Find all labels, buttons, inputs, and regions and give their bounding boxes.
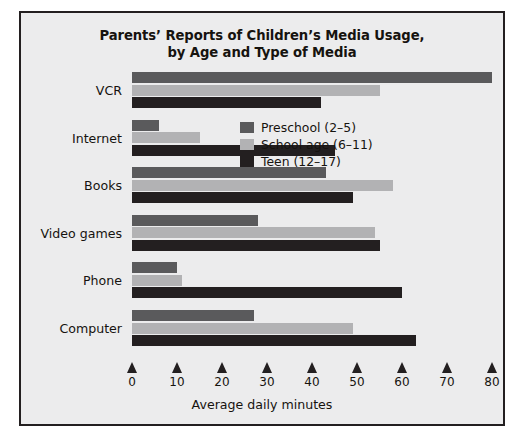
- bar: [132, 323, 353, 334]
- bar: [132, 120, 159, 131]
- legend-label: Preschool (2–5): [261, 120, 356, 135]
- x-axis-tick-marker: [127, 362, 137, 373]
- bar: [132, 262, 177, 273]
- chart-legend: Preschool (2–5)School age (6–11)Teen (12…: [240, 119, 373, 170]
- bar: [132, 227, 375, 238]
- bar: [132, 335, 416, 346]
- x-axis-title: Average daily minutes: [21, 397, 503, 412]
- category-label: Computer: [21, 321, 122, 336]
- x-axis-tick-marker: [487, 362, 497, 373]
- legend-label: Teen (12–17): [261, 154, 341, 169]
- legend-item: Teen (12–17): [240, 153, 373, 170]
- bar: [132, 72, 492, 83]
- category-label: VCR: [21, 83, 122, 98]
- category-label: Internet: [21, 130, 122, 145]
- bar: [132, 240, 380, 251]
- legend-swatch: [240, 122, 254, 133]
- x-axis-tick-label: 50: [349, 375, 364, 389]
- x-axis-tick-marker: [262, 362, 272, 373]
- plot-area: VCRInternetBooksVideo gamesPhoneComputer…: [21, 13, 503, 424]
- x-axis-tick-label: 60: [394, 375, 409, 389]
- category-label: Video games: [21, 225, 122, 240]
- x-axis-tick-label: 10: [169, 375, 184, 389]
- bar: [132, 287, 402, 298]
- bar: [132, 97, 321, 108]
- x-axis-tick-marker: [217, 362, 227, 373]
- legend-item: School age (6–11): [240, 136, 373, 153]
- category-label: Phone: [21, 273, 122, 288]
- legend-item: Preschool (2–5): [240, 119, 373, 136]
- bar: [132, 310, 254, 321]
- bar: [132, 132, 200, 143]
- x-axis-tick-label: 20: [214, 375, 229, 389]
- bar: [132, 192, 353, 203]
- chart-figure: Parents’ Reports of Children’s Media Usa…: [19, 11, 505, 426]
- x-axis-tick-label: 40: [304, 375, 319, 389]
- bar: [132, 215, 258, 226]
- legend-label: School age (6–11): [261, 137, 373, 152]
- x-axis-tick-label: 80: [484, 375, 499, 389]
- x-axis-tick-marker: [307, 362, 317, 373]
- bar: [132, 275, 182, 286]
- bar: [132, 180, 393, 191]
- legend-swatch: [240, 156, 254, 167]
- x-axis-tick-label: 70: [439, 375, 454, 389]
- x-axis-tick-marker: [442, 362, 452, 373]
- x-axis-tick-marker: [352, 362, 362, 373]
- legend-swatch: [240, 139, 254, 150]
- x-axis-tick-label: 30: [259, 375, 274, 389]
- bar: [132, 85, 380, 96]
- x-axis-tick-marker: [172, 362, 182, 373]
- category-label: Books: [21, 178, 122, 193]
- x-axis-tick-marker: [397, 362, 407, 373]
- x-axis-tick-label: 0: [128, 375, 136, 389]
